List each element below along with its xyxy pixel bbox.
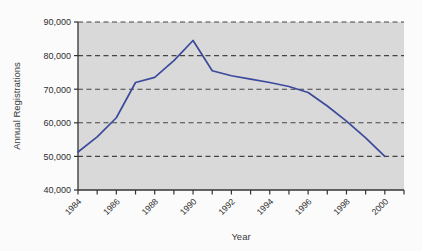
plot-area-background bbox=[78, 22, 404, 190]
x-axis-ticks-group bbox=[78, 190, 404, 195]
x-axis-tick-label: 1990 bbox=[178, 196, 199, 217]
chart-figure: 40,00050,00060,00070,00080,00090,000 198… bbox=[0, 0, 422, 251]
x-axis-title: Year bbox=[231, 231, 250, 242]
plot-background-group bbox=[78, 22, 404, 190]
x-axis-tick-label: 1986 bbox=[101, 196, 122, 217]
x-axis-tick-label: 1988 bbox=[140, 196, 161, 217]
y-axis-tick-label: 90,000 bbox=[43, 17, 71, 27]
x-axis-tick-label: 1984 bbox=[63, 196, 84, 217]
x-axis-tick-label: 1996 bbox=[293, 196, 314, 217]
y-axis-tick-label: 60,000 bbox=[43, 118, 71, 128]
x-axis-tick-label: 1994 bbox=[255, 196, 276, 217]
y-axis-tick-label: 50,000 bbox=[43, 152, 71, 162]
x-axis-tick-label: 1998 bbox=[331, 196, 352, 217]
y-axis-title: Annual Registrations bbox=[11, 62, 22, 150]
y-axis-tick-labels-group: 40,00050,00060,00070,00080,00090,000 bbox=[43, 17, 71, 195]
y-axis-tick-label: 70,000 bbox=[43, 85, 71, 95]
x-axis-tick-labels-group: 198419861988199019921994199619982000 bbox=[63, 196, 391, 217]
line-chart: 40,00050,00060,00070,00080,00090,000 198… bbox=[0, 0, 422, 251]
x-axis-tick-label: 2000 bbox=[370, 196, 391, 217]
y-axis-tick-label: 40,000 bbox=[43, 185, 71, 195]
x-axis-tick-label: 1992 bbox=[216, 196, 237, 217]
y-axis-tick-label: 80,000 bbox=[43, 51, 71, 61]
